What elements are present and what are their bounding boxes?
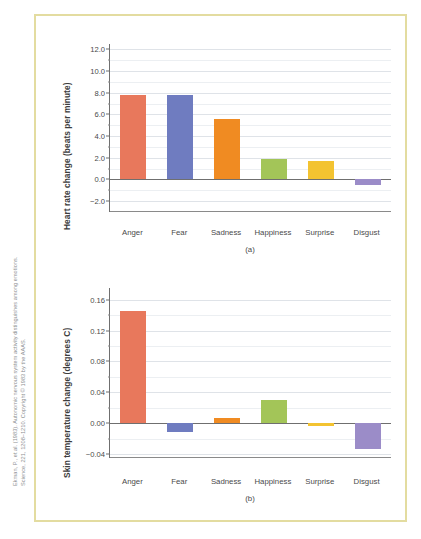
plot-area-b: 0.160.120.080.040.00−0.04 (109, 288, 391, 458)
y-tick-label: 12.0 (90, 45, 110, 54)
bar-fear[interactable] (167, 423, 193, 432)
gridline-minor (110, 377, 391, 378)
x-tick-label-surprise: Surprise (305, 228, 334, 237)
y-tick-label: 0.00 (90, 419, 110, 428)
bar-disgust[interactable] (355, 179, 381, 184)
y-tick-label: 8.0 (94, 88, 110, 97)
bar-anger[interactable] (120, 95, 146, 180)
chart-panel-a: Heart rate change (beats per minute) 12.… (36, 24, 409, 268)
y-tick-mark-minor (108, 345, 111, 346)
gridline-major (110, 136, 391, 137)
gridline-major (110, 361, 391, 362)
y-tick-mark-minor (108, 146, 111, 147)
y-tick-mark-minor (108, 315, 111, 316)
gridline-minor (110, 315, 391, 316)
gridline-minor (110, 408, 391, 409)
y-axis-label-b: Skin temperature change (degrees C) (62, 328, 72, 478)
x-tick-label-anger: Anger (122, 228, 143, 237)
gridline-minor (110, 82, 391, 83)
bar-fear[interactable] (167, 95, 193, 180)
y-axis-label-a: Heart rate change (beats per minute) (62, 83, 72, 230)
citation-line-2: Science, 221, 1208–1210. Copyright © 198… (20, 339, 26, 486)
y-tick-mark-minor (108, 190, 111, 191)
y-tick-label: 10.0 (90, 67, 110, 76)
x-tick-label-surprise: Surprise (305, 477, 334, 486)
y-tick-mark-minor (108, 125, 111, 126)
citation-line-1: Ekman, P., et al. (1983). Autonomic nerv… (12, 257, 18, 486)
bar-sadness[interactable] (214, 119, 240, 180)
x-tick-label-anger: Anger (122, 477, 143, 486)
panel-caption-a: (a) (109, 245, 391, 254)
gridline-minor (110, 190, 391, 191)
gridline-minor (110, 125, 391, 126)
bar-disgust[interactable] (355, 423, 381, 449)
bar-anger[interactable] (120, 311, 146, 423)
gridline-major (110, 300, 391, 301)
x-tick-label-fear: Fear (171, 228, 187, 237)
source-citation: Ekman, P., et al. (1983). Autonomic nerv… (0, 0, 28, 539)
bar-happiness[interactable] (261, 400, 287, 423)
gridline-major (110, 158, 391, 159)
chart-panel-b: Skin temperature change (degrees C) 0.16… (36, 272, 409, 516)
bar-surprise[interactable] (308, 423, 334, 426)
gridline-major (110, 49, 391, 50)
gridline-minor (110, 60, 391, 61)
gridline-major (110, 93, 391, 94)
axis-baseline (110, 211, 391, 212)
x-tick-label-disgust: Disgust (354, 477, 380, 486)
x-tick-label-sadness: Sadness (211, 228, 241, 237)
y-tick-label: 4.0 (94, 132, 110, 141)
gridline-minor (110, 169, 391, 170)
figure-frame: Heart rate change (beats per minute) 12.… (34, 14, 407, 522)
gridline-major (110, 454, 391, 455)
y-tick-label: −2.0 (90, 197, 110, 206)
x-tick-label-fear: Fear (171, 477, 187, 486)
plot-area-a: 12.010.08.06.04.02.00.0−2.0 (109, 44, 391, 212)
x-axis-labels-a: AngerFearSadnessHappinessSurpriseDisgust (109, 228, 391, 242)
axis-baseline (110, 457, 391, 458)
y-tick-mark-minor (108, 60, 111, 61)
x-tick-label-happiness: Happiness (254, 228, 291, 237)
y-tick-mark-minor (108, 81, 111, 82)
gridline-major (110, 201, 391, 202)
y-tick-mark-minor (108, 376, 111, 377)
x-axis-labels-b: AngerFearSadnessHappinessSurpriseDisgust (109, 477, 391, 491)
gridline-minor (110, 104, 391, 105)
y-tick-label: 0.12 (90, 326, 110, 335)
y-tick-mark-minor (108, 438, 111, 439)
y-tick-mark-minor (108, 103, 111, 104)
y-tick-label: 0.0 (94, 175, 110, 184)
y-tick-mark-minor (108, 168, 111, 169)
gridline-major (110, 392, 391, 393)
gridline-major (110, 71, 391, 72)
x-tick-label-disgust: Disgust (354, 228, 380, 237)
gridline-minor (110, 439, 391, 440)
x-tick-label-happiness: Happiness (254, 477, 291, 486)
y-tick-label: 0.04 (90, 388, 110, 397)
zero-axis-line (110, 423, 391, 424)
gridline-minor (110, 346, 391, 347)
bar-surprise[interactable] (308, 161, 334, 179)
y-tick-label: 0.08 (90, 357, 110, 366)
x-tick-label-sadness: Sadness (211, 477, 241, 486)
gridline-major (110, 114, 391, 115)
y-tick-label: −0.04 (86, 450, 110, 459)
panel-caption-b: (b) (109, 494, 391, 503)
zero-axis-line (110, 179, 391, 180)
y-tick-label: 0.16 (90, 295, 110, 304)
bar-happiness[interactable] (261, 159, 287, 180)
y-tick-label: 2.0 (94, 153, 110, 162)
y-tick-label: 6.0 (94, 110, 110, 119)
gridline-minor (110, 147, 391, 148)
gridline-major (110, 331, 391, 332)
y-tick-mark-minor (108, 407, 111, 408)
bar-sadness[interactable] (214, 418, 240, 423)
